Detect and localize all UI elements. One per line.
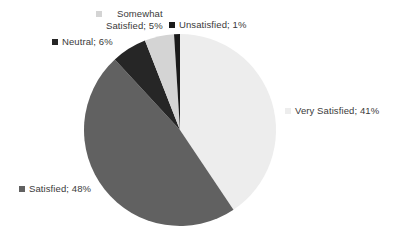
data-label-somewhat-satisfied: Somewhat Satisfied; 5%	[96, 8, 163, 31]
data-label-unsatisfied: Unsatisfied; 1%	[169, 19, 246, 31]
data-label-text: Satisfied; 48%	[29, 183, 91, 195]
data-label-text: Very Satisfied; 41%	[295, 105, 379, 117]
neutral-swatch-icon	[52, 39, 58, 45]
very-satisfied-swatch-icon	[285, 108, 291, 114]
data-label-very-satisfied: Very Satisfied; 41%	[285, 105, 379, 117]
data-label-text: Somewhat Satisfied; 5%	[106, 8, 163, 31]
data-label-neutral: Neutral; 6%	[52, 36, 113, 48]
satisfied-swatch-icon	[19, 186, 25, 192]
somewhat-satisfied-swatch-icon	[96, 11, 102, 17]
data-label-text: Unsatisfied; 1%	[179, 19, 246, 31]
data-label-text: Neutral; 6%	[62, 36, 113, 48]
pie-chart: Somewhat Satisfied; 5% Unsatisfied; 1% N…	[0, 0, 398, 247]
pie-slice-group	[84, 34, 276, 226]
data-label-satisfied: Satisfied; 48%	[19, 183, 91, 195]
unsatisfied-swatch-icon	[169, 22, 175, 28]
